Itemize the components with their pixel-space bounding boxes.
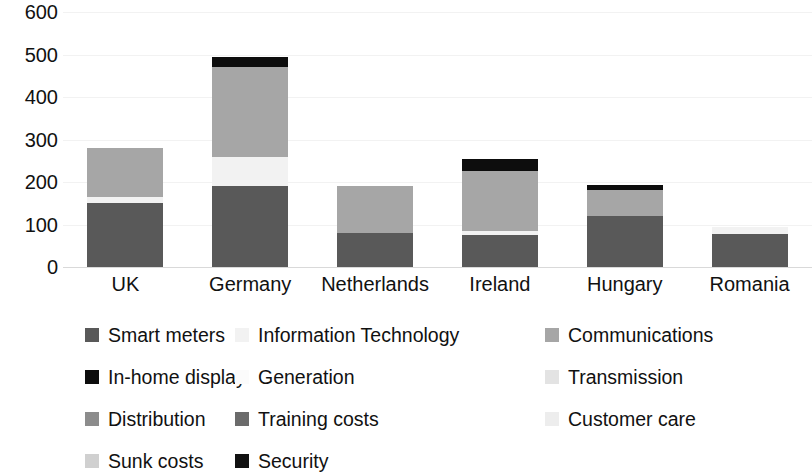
legend-label: Distribution [108, 407, 206, 431]
y-tick-label: 300 [2, 130, 58, 150]
chart-legend: Smart metersInformation TechnologyCommun… [0, 322, 812, 473]
bar-stack [462, 159, 538, 267]
legend-item[interactable]: Communications [545, 322, 713, 348]
bar-segment[interactable] [462, 171, 538, 231]
bar-segment[interactable] [212, 57, 288, 68]
x-axis: UKGermanyNetherlandsIrelandHungaryRomani… [63, 272, 812, 306]
legend-label: In-home display [108, 365, 246, 389]
legend-item[interactable]: Distribution [85, 406, 206, 432]
y-tick-label: 0 [2, 257, 58, 277]
legend-item[interactable]: Training costs [235, 406, 379, 432]
bar-segment[interactable] [212, 186, 288, 267]
legend-swatch-icon [235, 412, 249, 426]
legend-swatch-icon [85, 454, 99, 468]
bar-segment[interactable] [212, 157, 288, 187]
legend-item[interactable]: Sunk costs [85, 448, 203, 473]
bar-group[interactable] [87, 0, 163, 267]
legend-label: Transmission [568, 365, 683, 389]
bar-stack [337, 186, 413, 267]
y-tick-label: 400 [2, 87, 58, 107]
legend-label: Smart meters [108, 323, 225, 347]
y-tick-label: 600 [2, 2, 58, 22]
bar-group[interactable] [212, 0, 288, 267]
bar-segment[interactable] [337, 186, 413, 233]
legend-swatch-icon [545, 328, 559, 342]
legend-swatch-icon [235, 370, 249, 384]
plot-region: 0100200300400500600 UKGermanyNetherlands… [0, 0, 812, 310]
bar-segment[interactable] [87, 203, 163, 267]
x-tick-label: Ireland [438, 272, 563, 296]
stacked-bar-chart: 0100200300400500600 UKGermanyNetherlands… [0, 0, 812, 473]
bar-segment[interactable] [587, 216, 663, 267]
legend-label: Sunk costs [108, 449, 203, 473]
bar-stack [712, 227, 788, 267]
legend-item[interactable]: Smart meters [85, 322, 225, 348]
legend-swatch-icon [545, 370, 559, 384]
bar-stack [587, 185, 663, 267]
legend-label: Customer care [568, 407, 696, 431]
legend-item[interactable]: In-home display [85, 364, 246, 390]
bar-segment[interactable] [87, 148, 163, 197]
bar-stack [212, 57, 288, 267]
bar-group[interactable] [712, 0, 788, 267]
bar-segment[interactable] [462, 235, 538, 267]
y-axis: 0100200300400500600 [0, 0, 58, 280]
x-tick-label: Germany [188, 272, 313, 296]
y-tick-label: 100 [2, 215, 58, 235]
bar-group[interactable] [462, 0, 538, 267]
x-tick-label: Hungary [562, 272, 687, 296]
legend-label: Security [258, 449, 328, 473]
legend-swatch-icon [545, 412, 559, 426]
legend-label: Communications [568, 323, 713, 347]
legend-item[interactable]: Generation [235, 364, 354, 390]
legend-label: Generation [258, 365, 354, 389]
legend-swatch-icon [85, 370, 99, 384]
bars-layer [63, 0, 812, 280]
bar-group[interactable] [587, 0, 663, 267]
legend-swatch-icon [85, 412, 99, 426]
bar-stack [87, 148, 163, 267]
legend-item[interactable]: Transmission [545, 364, 683, 390]
bar-segment[interactable] [212, 67, 288, 156]
bar-segment[interactable] [712, 234, 788, 267]
bar-segment[interactable] [587, 190, 663, 216]
legend-swatch-icon [85, 328, 99, 342]
bar-segment[interactable] [462, 159, 538, 172]
y-tick-label: 500 [2, 45, 58, 65]
legend-item[interactable]: Security [235, 448, 328, 473]
legend-label: Training costs [258, 407, 379, 431]
x-tick-label: Netherlands [313, 272, 438, 296]
y-tick-label: 200 [2, 172, 58, 192]
legend-item[interactable]: Customer care [545, 406, 696, 432]
legend-item[interactable]: Information Technology [235, 322, 459, 348]
x-tick-label: Romania [687, 272, 812, 296]
bar-segment[interactable] [712, 227, 788, 234]
bar-segment[interactable] [337, 233, 413, 267]
legend-swatch-icon [235, 454, 249, 468]
legend-label: Information Technology [258, 323, 459, 347]
x-tick-label: UK [63, 272, 188, 296]
legend-swatch-icon [235, 328, 249, 342]
bar-group[interactable] [337, 0, 413, 267]
